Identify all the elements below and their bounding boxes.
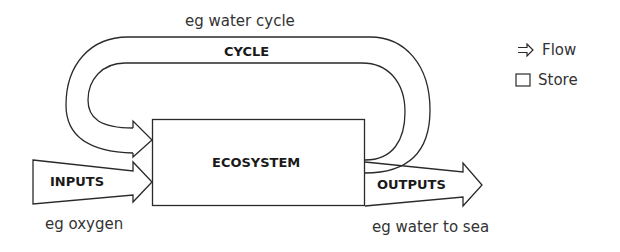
outputs-example-label: eg water to sea <box>372 218 489 236</box>
inputs-label: INPUTS <box>50 174 104 189</box>
cycle-example-label: eg water cycle <box>185 12 295 30</box>
legend-store-label: Store <box>538 71 578 89</box>
outputs-label: OUTPUTS <box>377 177 446 192</box>
ecosystem-label: ECOSYSTEM <box>212 155 300 170</box>
inputs-example-label: eg oxygen <box>45 215 123 233</box>
legend-store: Store <box>515 71 578 89</box>
flow-arrow-icon <box>517 43 535 57</box>
legend-flow-label: Flow <box>542 41 576 59</box>
cycle-label: CYCLE <box>224 44 269 59</box>
store-box-icon <box>515 73 531 87</box>
legend-flow: Flow <box>517 41 576 59</box>
